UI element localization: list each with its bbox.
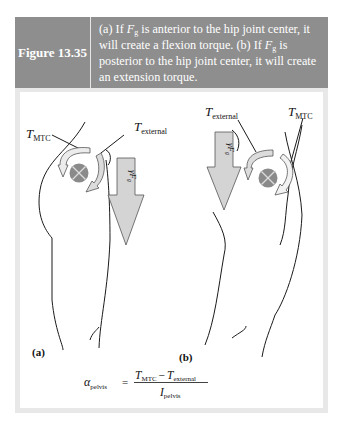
thigh-outline-mid [205, 212, 225, 345]
panel-label-a: (a) [32, 346, 45, 359]
torque-mtc-label-a: TMTC [26, 126, 51, 143]
torque-external-label-b: Texternal [205, 104, 239, 121]
equation-equals: = [122, 376, 128, 388]
leader-external [101, 135, 124, 153]
hip-joint-center-a [70, 164, 89, 183]
thigh-fold [90, 327, 99, 340]
external-torque-arrow-a [86, 153, 104, 192]
torque-external-label-a: Texternal [134, 119, 168, 136]
equation-lhs: αpelvis [84, 375, 107, 391]
force-label-b: γFg [225, 143, 236, 155]
hip-joint-center-b [259, 169, 278, 188]
equation-denominator: Ipelvis [159, 386, 181, 400]
angular-acceleration-equation: αpelvis = TMTC−Texternal Ipelvis [84, 369, 208, 400]
thigh-fold [232, 326, 246, 338]
equation-numerator: TMTC−Texternal [135, 369, 196, 383]
leader-external-b [238, 120, 256, 152]
leader-mtc-b [290, 118, 303, 165]
force-label-a: γFg [127, 170, 138, 182]
torque-mtc-label-b: TMTC [288, 104, 313, 121]
thigh-outline-front [262, 132, 302, 357]
mtc-torque-arrow-b [275, 154, 293, 195]
diagram-a [39, 122, 124, 350]
thigh-outline-front [99, 160, 110, 348]
panel-label-b: (b) [179, 351, 193, 364]
hip-torque-illustration: γFg TMTC Texternal (a) γFg Texternal TMT… [0, 0, 343, 424]
